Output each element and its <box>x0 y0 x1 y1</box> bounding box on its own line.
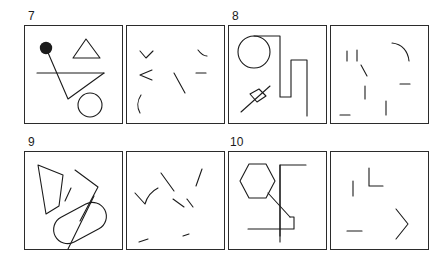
panel-border <box>25 152 123 250</box>
item-number-label: 8 <box>232 10 239 22</box>
fragment-panel-10 <box>330 151 429 250</box>
fragment-panel-7 <box>126 25 225 124</box>
fragment-panel-8 <box>330 25 429 124</box>
complete-figure-panel-8 <box>228 25 327 124</box>
fragment-panel-9 <box>126 151 225 250</box>
panel-border <box>229 152 327 250</box>
complete-figure-panel-7 <box>24 25 123 124</box>
panel-border <box>331 152 429 250</box>
panel-border <box>331 26 429 124</box>
figure-sheet: 7 <box>0 0 447 263</box>
item-number-label: 10 <box>230 136 243 148</box>
item-number-label: 7 <box>28 10 35 22</box>
complete-figure-panel-10 <box>228 151 327 250</box>
complete-figure-panel-9 <box>24 151 123 250</box>
item-number-label: 9 <box>28 136 35 148</box>
panel-border <box>25 26 123 124</box>
